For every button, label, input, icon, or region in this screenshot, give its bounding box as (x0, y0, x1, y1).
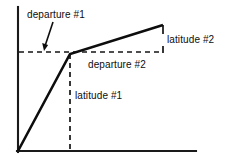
label-departure-2: departure #2 (88, 59, 146, 70)
label-latitude-2: latitude #2 (167, 34, 214, 45)
departure-1-leader-line (45, 22, 53, 46)
diagram-canvas (0, 0, 230, 159)
label-departure-1: departure #1 (27, 9, 85, 20)
traverse-polyline (18, 25, 163, 151)
departure-1-arrow-head (42, 43, 48, 51)
traverse-diagram: departure #1 departure #2 latitude #1 la… (0, 0, 230, 159)
label-latitude-1: latitude #1 (75, 90, 122, 101)
